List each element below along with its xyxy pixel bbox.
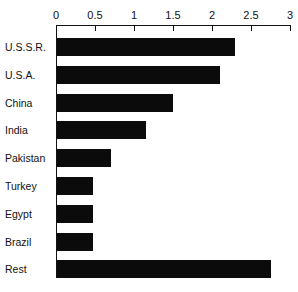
x-axis-tick-label: 2 — [209, 9, 215, 21]
x-axis-tick — [251, 25, 252, 31]
bar — [56, 66, 220, 84]
category-label: Rest — [5, 263, 27, 275]
bar — [56, 121, 146, 139]
category-label: Turkey — [5, 180, 37, 192]
y-axis-baseline — [56, 25, 57, 278]
x-axis-tick — [290, 25, 291, 31]
x-axis-tick — [134, 25, 135, 31]
x-axis-tick — [95, 25, 96, 31]
bar — [56, 177, 93, 195]
bar — [56, 233, 93, 251]
x-axis-tick-label: 3 — [287, 9, 293, 21]
bar-chart: 00.511.522.53 U.S.S.R.U.S.A.ChinaIndiaPa… — [0, 0, 298, 292]
x-axis-tick-label: 2.5 — [243, 9, 258, 21]
category-label: Brazil — [5, 236, 31, 248]
bar — [56, 205, 93, 223]
x-axis-tick — [173, 25, 174, 31]
category-label: Pakistan — [5, 152, 45, 164]
x-axis-tick-label: 0 — [53, 9, 59, 21]
x-axis-tick-label: 1.5 — [165, 9, 180, 21]
x-axis-tick-label: 0.5 — [87, 9, 102, 21]
category-label: Egypt — [5, 208, 32, 220]
bar — [56, 94, 173, 112]
bar — [56, 149, 111, 167]
category-label: U.S.A. — [5, 69, 35, 81]
category-label: China — [5, 97, 32, 109]
bar — [56, 38, 235, 56]
bar — [56, 260, 271, 278]
x-axis-tick — [212, 25, 213, 31]
category-label: U.S.S.R. — [5, 41, 46, 53]
category-label: India — [5, 124, 28, 136]
x-axis-tick-label: 1 — [131, 9, 137, 21]
